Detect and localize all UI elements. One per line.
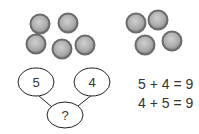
equation-2: 4 + 5 = 9	[138, 95, 193, 111]
whole-value: ?	[61, 108, 68, 123]
counter-icon	[31, 15, 50, 34]
part-oval-left: 5	[18, 68, 54, 96]
part-right-value: 4	[88, 75, 95, 90]
counter-icon	[136, 36, 155, 55]
counter-icon	[127, 14, 146, 33]
counter-icon	[59, 14, 78, 33]
counter-group-right	[127, 11, 182, 55]
counter-icon	[163, 32, 182, 51]
counter-icon	[76, 36, 95, 55]
part-oval-right: 4	[74, 68, 110, 96]
equation-1: 5 + 4 = 9	[138, 76, 193, 92]
whole-oval: ?	[47, 102, 83, 128]
counter-icon	[149, 11, 168, 30]
counter-icon	[53, 40, 72, 59]
number-bond-diagram: 5 4 ?	[0, 0, 199, 134]
counter-icon	[27, 35, 46, 54]
part-left-value: 5	[32, 75, 39, 90]
counter-group-left	[27, 14, 95, 59]
bond-line-left	[39, 96, 53, 108]
